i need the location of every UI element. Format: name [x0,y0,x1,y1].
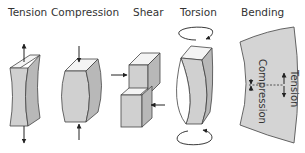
stress-diagram: Compression Tension [0,0,305,153]
tension-block [10,55,40,126]
shear-lower-cube [121,86,152,127]
bending-tension-label: Tension [289,69,300,107]
torsion-rotation-arrow-top [179,27,213,40]
torsion-block [177,46,213,124]
compression-block [62,59,102,122]
torsion-rotation-arrow-bottom [177,130,212,145]
bending-compression-label: Compression [257,59,268,124]
